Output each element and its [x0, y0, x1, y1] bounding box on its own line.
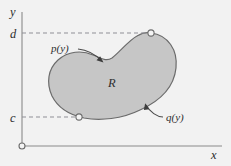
left-curve-label: p(y): [50, 42, 69, 55]
y-axis-label: y: [8, 5, 16, 19]
origin-marker: [19, 143, 25, 149]
lower-tangent-point-marker: [76, 114, 82, 120]
tick-label-d: d: [10, 27, 17, 41]
x-axis-label: x: [210, 148, 217, 162]
q-leader-curve: [146, 105, 163, 117]
region-label: R: [107, 76, 116, 90]
upper-tangent-point-marker: [148, 30, 154, 36]
tick-label-c: c: [10, 111, 16, 125]
figure-svg: y x d c R p(y) q(y): [0, 0, 231, 166]
right-curve-label: q(y): [166, 111, 184, 124]
figure-canvas: y x d c R p(y) q(y): [0, 0, 231, 166]
